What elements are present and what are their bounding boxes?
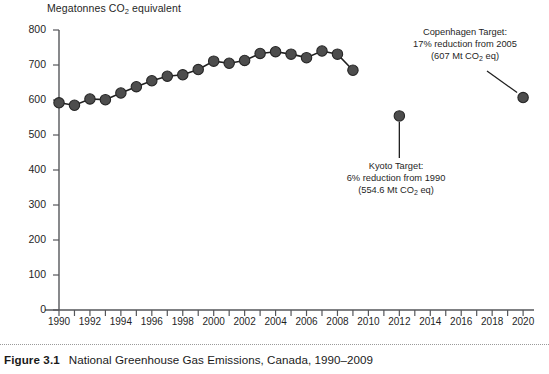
caption-divider	[0, 344, 549, 345]
x-axis-tick-label: 1990	[42, 316, 76, 327]
annotation-kyoto-line3-prefix: (554.6 Mt CO	[358, 185, 414, 195]
annotation-copenhagen-line1: Copenhagen Target:	[382, 26, 548, 38]
data-point-marker	[332, 49, 342, 59]
annotation-copenhagen-line2: 17% reduction from 2005	[382, 38, 548, 50]
data-point-marker	[178, 70, 188, 80]
x-axis-tick-label: 2006	[290, 316, 324, 327]
target-point-marker	[518, 92, 528, 102]
annotation-kyoto: Kyoto Target: 6% reduction from 1990 (55…	[313, 160, 479, 198]
y-axis-tick-label: 600	[16, 93, 46, 105]
data-point-marker	[85, 94, 95, 104]
data-point-marker	[317, 46, 327, 56]
data-point-marker	[147, 76, 157, 86]
x-axis-tick-label: 2018	[475, 316, 509, 327]
figure-caption: Figure 3.1National Greenhouse Gas Emissi…	[4, 353, 373, 366]
copenhagen-leader-line	[487, 71, 517, 93]
annotation-copenhagen-line3-subscript: 2	[479, 55, 483, 62]
data-point-marker	[286, 49, 296, 59]
annotation-leader-lines	[399, 71, 517, 158]
data-point-marker	[224, 58, 234, 68]
y-axis-tick-label: 800	[16, 23, 46, 35]
data-point-marker	[69, 100, 79, 110]
y-axis-tick-label: 300	[16, 198, 46, 210]
annotation-kyoto-line2: 6% reduction from 1990	[313, 172, 479, 184]
data-point-marker	[239, 55, 249, 65]
target-point-marker	[394, 111, 404, 121]
annotation-copenhagen: Copenhagen Target: 17% reduction from 20…	[382, 26, 548, 64]
chart-plot-area: Megatonnes CO2 equivalent 01002003004005…	[0, 0, 549, 340]
data-point-marker	[116, 88, 126, 98]
figure-caption-label: Figure 3.1	[4, 353, 60, 366]
annotation-copenhagen-line3: (607 Mt CO2 eq)	[382, 50, 548, 63]
y-axis-ticks	[53, 30, 59, 310]
x-axis-tick-label: 1996	[135, 316, 169, 327]
data-point-marker	[301, 52, 311, 62]
data-point-marker	[131, 82, 141, 92]
annotation-copenhagen-line3-suffix: eq)	[483, 51, 499, 61]
y-axis-tick-label: 700	[16, 58, 46, 70]
y-axis-tick-label: 0	[16, 303, 46, 315]
x-axis-tick-label: 2012	[382, 316, 416, 327]
x-axis-tick-label: 2008	[320, 316, 354, 327]
x-axis-tick-label: 2002	[228, 316, 262, 327]
x-axis-tick-label: 2000	[197, 316, 231, 327]
y-axis-tick-label: 400	[16, 163, 46, 175]
data-point-marker	[209, 56, 219, 66]
y-axis-tick-label: 100	[16, 268, 46, 280]
x-axis-tick-label: 1994	[104, 316, 138, 327]
data-point-marker	[54, 98, 64, 108]
data-point-marker	[162, 71, 172, 81]
figure-caption-text: National Greenhouse Gas Emissions, Canad…	[69, 353, 373, 366]
x-axis-tick-label: 2004	[259, 316, 293, 327]
annotation-kyoto-line3-subscript: 2	[414, 189, 418, 196]
figure-container: Megatonnes CO2 equivalent 01002003004005…	[0, 0, 549, 374]
x-axis-tick-label: 2014	[413, 316, 447, 327]
data-point-marker	[100, 94, 110, 104]
data-point-marker	[270, 47, 280, 57]
data-point-marker	[255, 48, 265, 58]
annotation-kyoto-line1: Kyoto Target:	[313, 160, 479, 172]
x-axis-tick-label: 2016	[444, 316, 478, 327]
y-axis-tick-label: 500	[16, 128, 46, 140]
data-point-marker	[348, 65, 358, 75]
x-axis-tick-label: 1998	[166, 316, 200, 327]
x-axis-tick-label: 1992	[73, 316, 107, 327]
annotation-copenhagen-line3-prefix: (607 Mt CO	[431, 51, 479, 61]
annotation-kyoto-line3: (554.6 Mt CO2 eq)	[313, 184, 479, 197]
data-point-marker	[193, 64, 203, 74]
y-axis-tick-label: 200	[16, 233, 46, 245]
x-axis-tick-label: 2010	[351, 316, 385, 327]
x-axis-tick-label: 2020	[506, 316, 540, 327]
annotation-kyoto-line3-suffix: eq)	[418, 185, 434, 195]
